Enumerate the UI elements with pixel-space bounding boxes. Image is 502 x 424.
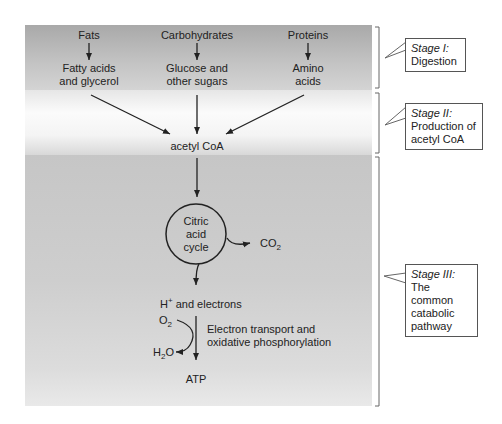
h2o-pre: H — [153, 346, 161, 358]
stage2-title: Stage II: — [411, 107, 477, 120]
o2-base: O — [159, 314, 168, 326]
cycle-line: cycle — [166, 241, 226, 254]
atp-label: ATP — [176, 373, 216, 386]
h-rest: and electrons — [173, 298, 242, 310]
electron-transport-label: Electron transport and oxidative phospho… — [207, 323, 331, 349]
h-electrons-label: H+ and electrons — [160, 298, 242, 311]
stage1-callout: Stage I: Digestion — [405, 38, 466, 72]
o2-label: O2 — [159, 314, 172, 327]
h2o-label: H2O — [153, 346, 174, 359]
product-line: Glucose and — [157, 62, 237, 75]
cycle-line: Citric — [166, 215, 226, 228]
source-fats: Fats — [59, 29, 119, 42]
product-glucose: Glucose and other sugars — [157, 62, 237, 88]
stage2-callout: Stage II: Production of acetyl CoA — [405, 103, 483, 150]
co2-label: CO2 — [260, 237, 281, 250]
stage2-desc-line: Production of — [411, 120, 477, 133]
stage3-title: Stage III: — [411, 268, 472, 281]
h-base: H — [160, 298, 168, 310]
source-carbohydrates: Carbohydrates — [137, 29, 257, 42]
h2o-post: O — [165, 346, 174, 358]
co2-base: CO — [260, 237, 277, 249]
product-line: Amino — [268, 62, 348, 75]
stage3-desc-line: catabolic — [411, 307, 472, 320]
stage3-desc-line: pathway — [411, 320, 472, 333]
product-line: acids — [268, 75, 348, 88]
co2-sub: 2 — [277, 243, 281, 252]
source-proteins: Proteins — [268, 29, 348, 42]
stage1-title: Stage I: — [411, 42, 460, 55]
product-line: and glycerol — [49, 75, 129, 88]
stage2-desc-line: acetyl CoA — [411, 133, 477, 146]
stage3-desc-line: The common — [411, 281, 472, 307]
product-line: other sugars — [157, 75, 237, 88]
stage3-callout: Stage III: The common catabolic pathway — [405, 264, 478, 337]
acetyl-coa-label: acetyl CoA — [157, 140, 237, 153]
stage1-desc: Digestion — [411, 55, 457, 67]
cycle-line: acid — [166, 228, 226, 241]
citric-acid-cycle-label: Citric acid cycle — [166, 215, 226, 254]
product-line: Fatty acids — [49, 62, 129, 75]
product-amino-acids: Amino acids — [268, 62, 348, 88]
product-fatty-acids: Fatty acids and glycerol — [49, 62, 129, 88]
etc-line: oxidative phosphorylation — [207, 336, 331, 349]
etc-line: Electron transport and — [207, 323, 331, 336]
o2-sub: 2 — [168, 320, 172, 329]
